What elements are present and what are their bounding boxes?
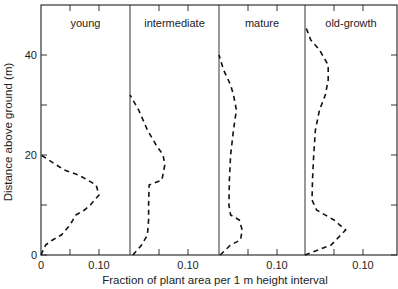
chart-container: 02040young00.10intermediate0.10mature0.1… — [0, 0, 398, 289]
y-tick-label: 40 — [25, 49, 37, 61]
y-axis-label: Distance above ground (m) — [2, 62, 14, 201]
x-tick-label: 0.10 — [266, 259, 287, 271]
panel-label-young: young — [71, 17, 101, 29]
y-tick-label: 0 — [31, 249, 37, 261]
chart-svg: 02040young00.10intermediate0.10mature0.1… — [0, 0, 398, 289]
x-axis-label: Fraction of plant area per 1 m height in… — [102, 274, 328, 286]
x-tick-label: 0.10 — [177, 259, 198, 271]
x-tick-label: 0 — [38, 259, 44, 271]
profile-line-intermediate — [130, 95, 165, 255]
plot-area: 02040young00.10intermediate0.10mature0.1… — [25, 5, 397, 271]
panel-label-intermediate: intermediate — [144, 17, 205, 29]
x-tick-label: 0.10 — [88, 259, 109, 271]
profile-line-mature — [219, 55, 242, 255]
panel-label-old-growth: old-growth — [325, 17, 376, 29]
y-tick-label: 20 — [25, 149, 37, 161]
x-tick-label: 0.10 — [352, 259, 373, 271]
panel-label-mature: mature — [245, 17, 279, 29]
profile-line-young — [41, 155, 99, 255]
profile-line-old-growth — [305, 25, 346, 255]
